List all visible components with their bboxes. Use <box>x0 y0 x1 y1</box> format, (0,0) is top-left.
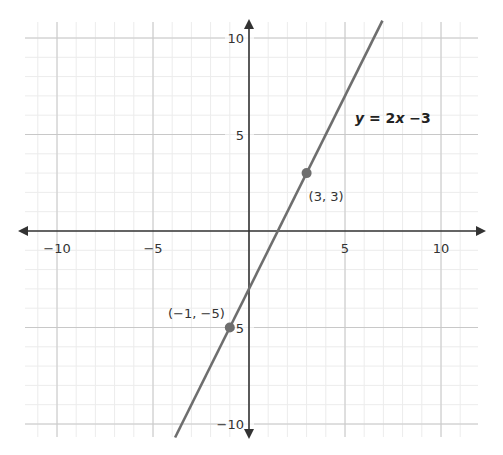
x-tick-label: −10 <box>43 241 70 256</box>
x-tick-label: 10 <box>433 241 450 256</box>
data-point-label: (3, 3) <box>309 189 344 204</box>
axes <box>18 19 486 439</box>
minor-gridlines <box>25 22 478 437</box>
data-point-dot <box>302 168 312 178</box>
data-point-label: (−1, −5) <box>168 306 225 321</box>
y-tick-label: −10 <box>217 417 244 432</box>
data-point-dot <box>225 323 235 333</box>
major-gridlines <box>25 22 478 437</box>
equation-part-const: −3 <box>404 110 430 126</box>
data-series <box>175 21 382 438</box>
x-axis-right-arrow-icon <box>476 226 486 236</box>
equation-part-eq: = 2 <box>364 110 395 126</box>
x-tick-label: −5 <box>143 241 162 256</box>
equation-label: y = 2x −3 <box>355 110 431 126</box>
y-tick-label: 5 <box>236 128 244 143</box>
x-axis-left-arrow-icon <box>18 226 28 236</box>
y-axis-down-arrow-icon <box>244 429 254 439</box>
line-y-equals-2x-minus-3 <box>175 21 382 438</box>
line-graph: −10−5510105−5−10 (3, 3)(−1, −5) y = 2x −… <box>0 0 503 455</box>
y-tick-label: 10 <box>227 31 244 46</box>
y-axis-up-arrow-icon <box>244 19 254 29</box>
x-tick-label: 5 <box>341 241 349 256</box>
